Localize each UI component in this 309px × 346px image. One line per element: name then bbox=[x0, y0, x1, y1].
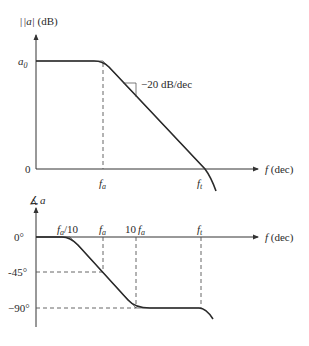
magnitude-plot: ||a| (dB) a0 0 −20 dB/dec fa ft f (dec) bbox=[18, 15, 294, 191]
phase-tick-minus45: -45° bbox=[8, 266, 27, 278]
phase-tick-minus90: −90° bbox=[8, 302, 30, 314]
ten-fa-tick-label: 10fa bbox=[125, 223, 145, 237]
ft-phase-tick-label: ft bbox=[197, 223, 203, 237]
phase-y-label: ∡a bbox=[29, 194, 46, 206]
a0-tick-label: a0 bbox=[18, 55, 28, 70]
bode-plot: ||a| (dB) a0 0 −20 dB/dec fa ft f (dec) bbox=[0, 0, 309, 346]
phase-plot: ∡a 0° -45° −90° fa/10 fa 10fa ft bbox=[8, 194, 294, 327]
fa-tick-label: fa bbox=[99, 177, 106, 191]
phase-asymptote bbox=[36, 237, 201, 308]
phase-curve bbox=[36, 237, 213, 319]
zero-db-tick-label: 0 bbox=[25, 163, 31, 175]
fa-div-10-tick-label: fa/10 bbox=[57, 223, 79, 237]
slope-annotation: −20 dB/dec bbox=[141, 78, 192, 90]
phase-tick-0: 0° bbox=[14, 231, 24, 243]
magnitude-x-label: f (dec) bbox=[265, 163, 294, 176]
phase-x-label: f (dec) bbox=[265, 231, 294, 244]
ft-tick-label: ft bbox=[197, 177, 203, 191]
fa-phase-tick-label: fa bbox=[99, 223, 106, 237]
magnitude-y-label: ||a| (dB) bbox=[20, 15, 58, 28]
